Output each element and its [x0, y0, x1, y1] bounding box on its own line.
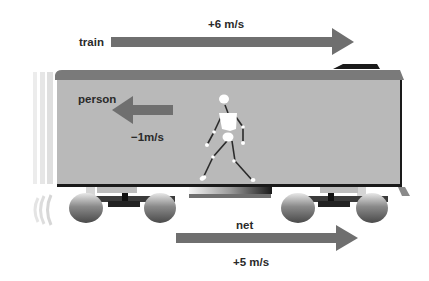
person-label: person: [78, 93, 116, 105]
wheel: [144, 193, 176, 223]
train-velocity-arrow: [111, 28, 354, 55]
undercarriage-bar: [189, 187, 272, 198]
train-velocity-label: +6 m/s: [208, 18, 244, 30]
net-label: net: [236, 219, 253, 231]
person-velocity-label: −1m/s: [131, 131, 164, 143]
motion-lines: [33, 72, 53, 225]
net-velocity-arrow: [176, 225, 358, 251]
roof-vent: [333, 64, 380, 69]
wheel: [281, 193, 315, 223]
wheel: [69, 193, 103, 223]
wheel: [356, 193, 388, 223]
left-wheel-bogie: [69, 187, 176, 223]
train-label: train: [79, 36, 104, 48]
car-roof: [55, 70, 404, 80]
net-velocity-label: +5 m/s: [233, 256, 269, 268]
train-diagram: [0, 0, 429, 281]
right-wheel-bogie: [281, 187, 388, 223]
